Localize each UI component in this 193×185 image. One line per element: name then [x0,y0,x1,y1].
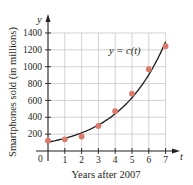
y-tick-label: 1000 [23,62,42,72]
y-tick-label: 600 [28,96,43,106]
y-tick-label: 200 [28,129,43,139]
data-point [146,66,152,72]
data-point [112,108,118,114]
x-tick-label: 6 [146,155,151,165]
x-tick-label: 7 [163,155,168,165]
data-point [62,136,68,142]
y-axis-label: Smartphones sold (in millions) [7,27,19,157]
x-tick-label: 1 [62,155,67,165]
data-point [129,91,135,97]
y-axis-arrow-icon [46,14,51,22]
chart: 200400600800100012001400 1234567 y = c(t… [0,0,193,185]
y-tick-label: 800 [28,79,43,89]
curve-label: y = c(t) [108,45,141,57]
x-axis-arrow-icon [172,149,180,154]
axes [36,14,180,161]
y-tick-labels: 200400600800100012001400 [23,28,42,139]
x-tick-label: 5 [130,155,135,165]
x-tick-label: 4 [113,155,118,165]
x-tick-label: 3 [96,155,101,165]
data-point [79,134,85,140]
data-point [45,138,51,144]
data-point [163,43,169,49]
x-axis-variable: t [180,151,184,162]
x-axis-label: Years after 2007 [72,169,141,180]
origin-label: 0 [38,154,43,164]
y-tick-label: 1200 [23,45,42,55]
curve-y-equals-c-t [48,42,166,142]
data-point [96,123,102,129]
y-tick-label: 400 [28,112,43,122]
y-tick-label: 1400 [23,28,42,38]
grid-lines [48,33,166,151]
y-axis-variable: y [36,14,42,25]
data-points [45,43,168,143]
x-tick-label: 2 [79,155,84,165]
x-tick-labels: 1234567 [62,155,168,165]
